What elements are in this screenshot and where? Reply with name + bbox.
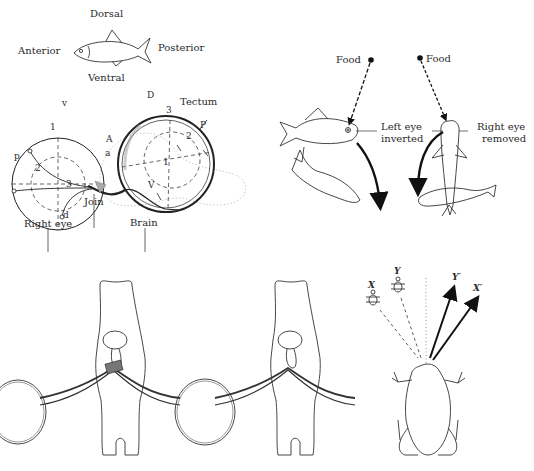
callout-brain: Brain	[130, 217, 158, 228]
label-anterior: Anterior	[18, 45, 60, 56]
label-y-prime: Y′	[452, 272, 461, 283]
inverted-eye-fish-diagram	[280, 57, 380, 204]
eye-point-3: 3	[66, 179, 72, 190]
figure-canvas	[0, 0, 534, 471]
food-dot-icon	[417, 55, 423, 61]
insect-x-icon	[366, 290, 380, 305]
label-ventral: Ventral	[88, 72, 125, 83]
tectum-axis-V: V	[148, 180, 155, 191]
retinotectal-map-diagram	[12, 116, 245, 252]
food-dot-icon	[368, 57, 374, 63]
label-posterior: Posterior	[158, 42, 204, 53]
label-left-eye: Left eye	[381, 121, 422, 132]
label-insect-y: Y	[394, 266, 400, 277]
tectum-point-1: 1	[163, 157, 169, 168]
callout-join: Join	[84, 196, 104, 207]
tectum-point-2: 2	[186, 131, 192, 142]
brain-optic-nerves-crossed-intact	[0, 281, 235, 455]
tectum-axis-A: A	[106, 134, 113, 145]
callout-tectum: Tectum	[180, 96, 217, 107]
tectum-axis-P: P	[200, 120, 206, 131]
label-x-prime: X′	[473, 283, 482, 294]
label-right-eye-b: Right eye	[477, 121, 525, 132]
label-food-left: Food	[336, 54, 361, 65]
eye-point-2: 2	[35, 163, 41, 174]
label-inverted: inverted	[381, 133, 423, 144]
label-dorsal: Dorsal	[90, 8, 123, 19]
eye-axis-a: a	[105, 148, 110, 159]
frog-prey-localisation-diagram	[366, 277, 476, 455]
tectum-point-3: 3	[166, 105, 172, 116]
orientation-fish-icon	[74, 30, 151, 66]
tectum-axis-D: D	[147, 90, 154, 101]
callout-right-eye: Right eye	[24, 218, 72, 229]
insect-y-icon	[391, 277, 405, 292]
label-removed: removed	[482, 133, 526, 144]
eye-axis-v: v	[62, 98, 67, 109]
label-food-right: Food	[426, 53, 451, 64]
label-insect-x: X	[368, 280, 375, 291]
eye-axis-p: p	[14, 151, 20, 162]
eye-point-1: 1	[50, 122, 56, 133]
